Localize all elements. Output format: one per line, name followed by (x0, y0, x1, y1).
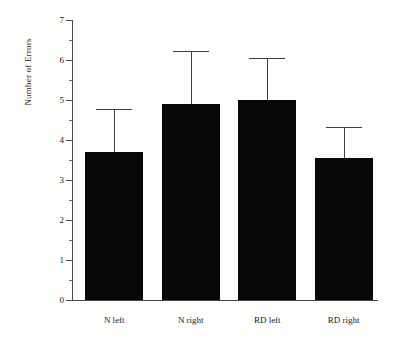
y-tick-minor (69, 160, 72, 161)
bar (162, 104, 220, 300)
bar-chart-figure: Number of Errors 01234567 N leftN rightR… (0, 0, 395, 343)
y-tick-label: 6 (60, 56, 65, 65)
error-bar-cap (173, 51, 209, 52)
error-bar-stem (344, 127, 345, 158)
x-axis-category-label: N left (74, 315, 154, 325)
y-tick-major (66, 260, 72, 261)
y-tick-major (66, 20, 72, 21)
y-tick-label: 2 (60, 216, 65, 225)
y-tick-major (66, 60, 72, 61)
y-tick-major (66, 100, 72, 101)
y-tick-label: 1 (60, 256, 65, 265)
error-bar-cap (249, 58, 285, 59)
y-tick-label: 5 (60, 96, 65, 105)
y-tick-minor (69, 280, 72, 281)
y-tick-minor (69, 240, 72, 241)
bar (238, 100, 296, 300)
y-tick-major (66, 140, 72, 141)
bar (85, 152, 143, 300)
y-tick-minor (69, 120, 72, 121)
y-tick-major (66, 300, 72, 301)
y-tick-label: 3 (60, 176, 65, 185)
y-tick-label: 4 (60, 136, 65, 145)
x-axis-category-label: RD left (227, 315, 307, 325)
y-tick-label: 7 (60, 16, 65, 25)
y-tick-minor (69, 80, 72, 81)
y-tick-major (66, 220, 72, 221)
plot-area: 01234567 (72, 20, 378, 300)
error-bar-stem (114, 109, 115, 152)
error-bar-cap (326, 127, 362, 128)
x-axis-line (72, 300, 378, 301)
x-axis-category-label: N right (151, 315, 231, 325)
y-tick-minor (69, 40, 72, 41)
y-tick-label: 0 (60, 296, 65, 305)
y-tick-minor (69, 200, 72, 201)
y-axis-line (72, 20, 73, 301)
x-axis-category-label: RD right (304, 315, 384, 325)
error-bar-cap (96, 109, 132, 110)
y-axis-title: Number of Errors (23, 12, 41, 132)
error-bar-stem (267, 58, 268, 100)
y-tick-major (66, 180, 72, 181)
error-bar-stem (191, 51, 192, 104)
bar (315, 158, 373, 300)
